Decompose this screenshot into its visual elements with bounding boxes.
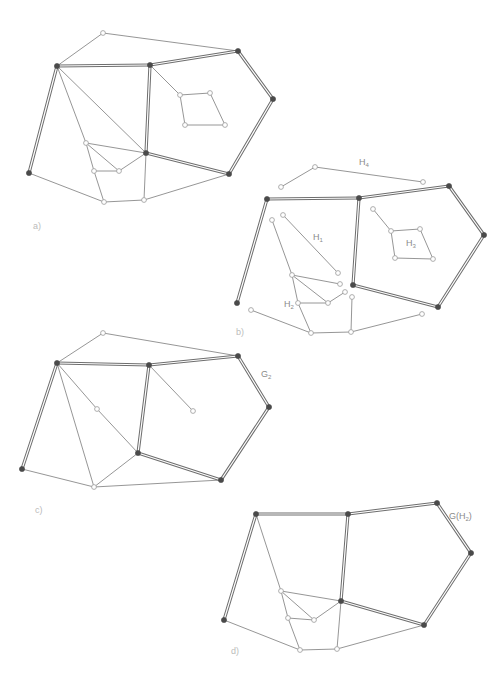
filled-vertex xyxy=(54,360,59,365)
hollow-vertex xyxy=(389,229,394,234)
hollow-vertex xyxy=(178,93,183,98)
edge xyxy=(337,601,341,649)
edge xyxy=(328,292,345,303)
label-h2: H2 xyxy=(284,299,294,310)
hollow-vertex xyxy=(95,407,100,412)
hollow-vertex xyxy=(418,227,423,232)
thick-edge-core xyxy=(237,199,267,303)
hollow-vertex xyxy=(421,180,426,185)
hollow-vertex xyxy=(142,198,147,203)
filled-vertex xyxy=(421,622,426,627)
hollow-vertex xyxy=(223,123,228,128)
filled-vertex xyxy=(481,232,486,237)
thick-edge-core xyxy=(353,285,438,307)
filled-vertex xyxy=(26,170,31,175)
hollow-vertex xyxy=(286,616,291,621)
edge xyxy=(292,275,340,284)
hollow-vertex xyxy=(279,589,284,594)
hollow-vertex xyxy=(92,485,97,490)
hollow-vertex xyxy=(281,213,286,218)
thick-edge-core xyxy=(359,186,449,198)
hollow-vertex xyxy=(350,295,355,300)
filled-vertex xyxy=(226,171,231,176)
filled-vertex xyxy=(54,63,59,68)
hollow-vertex xyxy=(102,200,107,205)
hollow-vertex xyxy=(338,282,343,287)
hollow-vertex xyxy=(420,312,425,317)
edge xyxy=(94,480,221,487)
thick-edge-core xyxy=(341,601,424,625)
edge xyxy=(337,625,424,649)
label-g2: G2 xyxy=(261,369,271,380)
figure-canvas: a) b) c) d) H4 H1 H3 H2 G2 G(H2) xyxy=(0,0,503,677)
thick-edge-core xyxy=(449,186,484,235)
edge xyxy=(57,66,86,143)
edge xyxy=(272,220,292,275)
edge xyxy=(180,95,185,125)
hollow-vertex xyxy=(431,257,436,262)
thick-edge-core xyxy=(221,407,269,480)
edge xyxy=(210,93,225,125)
hollow-vertex xyxy=(313,165,318,170)
hollow-vertex xyxy=(336,271,341,276)
hollow-vertex xyxy=(290,273,295,278)
hollow-vertex xyxy=(183,123,188,128)
filled-vertex xyxy=(234,300,239,305)
edge xyxy=(22,469,94,487)
thick-edge-core xyxy=(224,514,256,620)
edge xyxy=(395,258,433,259)
edge xyxy=(311,332,351,333)
thick-edge-core xyxy=(238,51,273,99)
edge xyxy=(57,363,97,409)
edge xyxy=(281,591,288,618)
graph-diagram xyxy=(0,0,503,677)
hollow-vertex xyxy=(312,618,317,623)
thick-edge-core xyxy=(149,356,238,365)
panel-label-b: b) xyxy=(236,327,244,337)
panel-label-a: a) xyxy=(33,221,41,231)
edge xyxy=(300,649,337,650)
edge xyxy=(97,409,138,453)
edge xyxy=(288,618,314,620)
thick-edge-core xyxy=(353,198,359,285)
filled-vertex xyxy=(235,353,240,358)
edge xyxy=(86,143,119,171)
filled-vertex xyxy=(266,404,271,409)
filled-vertex xyxy=(221,617,226,622)
edge xyxy=(103,33,238,51)
edge xyxy=(149,365,193,411)
hollow-vertex xyxy=(349,330,354,335)
hollow-vertex xyxy=(335,647,340,652)
filled-vertex xyxy=(218,477,223,482)
hollow-vertex xyxy=(279,185,284,190)
edge xyxy=(144,153,146,200)
hollow-vertex xyxy=(249,308,254,313)
edge xyxy=(314,601,341,620)
edge xyxy=(281,167,315,187)
hollow-vertex xyxy=(298,648,303,653)
filled-vertex xyxy=(143,150,148,155)
filled-vertex xyxy=(446,183,451,188)
thick-edge-core xyxy=(150,51,238,65)
label-h4: H4 xyxy=(359,157,369,168)
edge xyxy=(315,167,423,182)
edge xyxy=(94,171,104,202)
hollow-vertex xyxy=(191,409,196,414)
filled-vertex xyxy=(435,304,440,309)
filled-vertex xyxy=(468,550,473,555)
edge xyxy=(94,453,138,487)
edge xyxy=(288,618,300,650)
edge xyxy=(86,143,94,171)
edge xyxy=(150,65,180,95)
edge xyxy=(57,33,103,66)
filled-vertex xyxy=(356,195,361,200)
filled-vertex xyxy=(235,48,240,53)
panel-label-d: d) xyxy=(231,646,239,656)
hollow-vertex xyxy=(84,141,89,146)
thick-edge-core xyxy=(424,553,471,625)
hollow-vertex xyxy=(101,331,106,336)
panel-label-c: c) xyxy=(35,505,43,515)
filled-vertex xyxy=(434,500,439,505)
hollow-vertex xyxy=(393,256,398,261)
edge xyxy=(57,363,94,487)
